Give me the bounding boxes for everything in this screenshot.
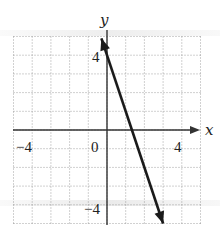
- x-axis-label: x: [205, 121, 214, 139]
- x-tick-pos4: 4: [174, 139, 182, 155]
- coordinate-plane: x y −4 0 4 4 −4: [0, 0, 220, 225]
- arrowhead-icon: [100, 38, 109, 51]
- plotted-line: [100, 38, 164, 223]
- x-axis-arrow-icon: [190, 126, 200, 134]
- origin-label: 0: [91, 139, 99, 155]
- x-tick-neg4: −4: [16, 139, 32, 155]
- arrowhead-icon: [155, 211, 164, 224]
- y-axis-label: y: [99, 11, 109, 29]
- y-tick-neg4: −4: [84, 201, 100, 217]
- y-tick-pos4: 4: [92, 49, 100, 65]
